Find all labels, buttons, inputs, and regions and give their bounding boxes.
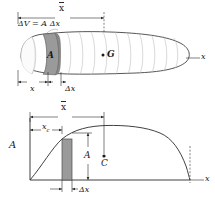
bottom-axes xyxy=(30,118,204,183)
area-curve xyxy=(30,125,190,180)
xbar-glyph: x xyxy=(59,3,64,13)
figure-canvas: x ΔV = A Δx A G x x Δx x xc A A C Δx x xyxy=(0,0,215,200)
delta-v-equation: ΔV = A Δx xyxy=(18,19,60,28)
xbar-glyph-2: x xyxy=(61,102,66,112)
bottom-xbar-label: x xyxy=(61,103,66,112)
area-strip xyxy=(62,139,72,180)
bottom-area-axis-label: A xyxy=(9,139,16,150)
figure-svg xyxy=(0,0,215,200)
centroid-marker-G xyxy=(102,54,105,57)
overbar-rule-2 xyxy=(61,101,66,102)
top-delta-x-label: Δx xyxy=(65,84,75,93)
overbar-rule xyxy=(59,2,64,3)
xc-subscript: c xyxy=(47,127,50,133)
bottom-xc-label: xc xyxy=(42,122,50,133)
bottom-delta-x-label: Δx xyxy=(79,185,89,194)
top-axis-x-label: x xyxy=(201,52,206,61)
top-area-label: A xyxy=(47,50,54,60)
bottom-strip-height-label: A xyxy=(84,150,91,160)
equation-leader-line xyxy=(47,29,58,33)
top-xbar-label: x xyxy=(59,4,64,13)
bottom-centroid-label-C: C xyxy=(101,158,108,168)
bottom-axis-x-label: x xyxy=(205,174,210,183)
top-x-label: x xyxy=(30,84,35,93)
bottom-deltax-dimension xyxy=(50,180,78,192)
top-centroid-label-G: G xyxy=(107,49,115,59)
